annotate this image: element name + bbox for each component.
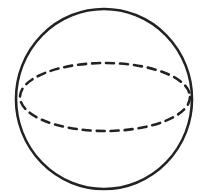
sphere-diagram bbox=[0, 0, 200, 193]
sphere-outline bbox=[16, 9, 192, 189]
equator-dashed-ellipse bbox=[20, 63, 190, 131]
